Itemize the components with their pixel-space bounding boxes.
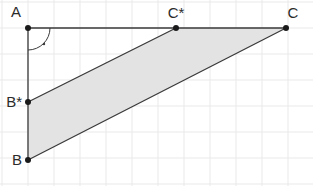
right-angle-marker-layer xyxy=(28,28,50,50)
vertex-point-C xyxy=(283,25,289,31)
geometry-canvas: AB*BC*C xyxy=(0,0,313,186)
vertex-label-B: B xyxy=(12,151,22,168)
geometry-figure: AB*BC*C xyxy=(0,0,313,186)
vertex-point-B xyxy=(25,157,31,163)
right-angle-at-A-dot xyxy=(43,43,45,45)
right-angle-at-A-arc xyxy=(28,28,50,50)
vertex-label-Bstar: B* xyxy=(6,93,22,110)
vertex-point-Bstar xyxy=(25,99,31,105)
vertex-point-Cstar xyxy=(173,25,179,31)
vertex-label-A: A xyxy=(11,3,21,20)
vertex-label-Cstar: C* xyxy=(168,4,185,21)
vertex-point-A xyxy=(25,25,31,31)
vertex-label-C: C xyxy=(288,4,299,21)
